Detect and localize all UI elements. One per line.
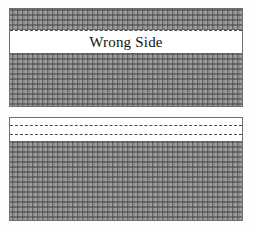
top-panel-lower-fabric	[10, 53, 242, 106]
bottom-panel-fold-line-lower	[10, 134, 242, 135]
top-panel-fold-line	[10, 30, 242, 31]
wrong-side-label: Wrong Side	[10, 34, 242, 50]
bottom-panel-fold-line-upper	[10, 125, 242, 126]
top-fabric-panel: Wrong Side	[9, 8, 243, 107]
top-panel-upper-fabric	[10, 9, 242, 30]
top-panel-white-band: Wrong Side	[10, 30, 242, 53]
bottom-panel-white-band	[10, 118, 242, 141]
diagram-canvas: Wrong Side	[0, 0, 254, 229]
bottom-panel-fabric	[10, 141, 242, 220]
bottom-fabric-panel	[9, 117, 243, 221]
